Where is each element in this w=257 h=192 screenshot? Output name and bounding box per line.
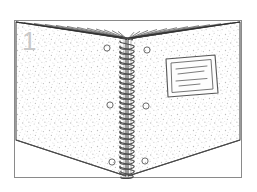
spiral-book-illustration: 1 [0,0,257,192]
cover-label-card [166,55,218,97]
illustration-container: 1 [0,0,257,192]
step-number: 1 [22,26,36,56]
